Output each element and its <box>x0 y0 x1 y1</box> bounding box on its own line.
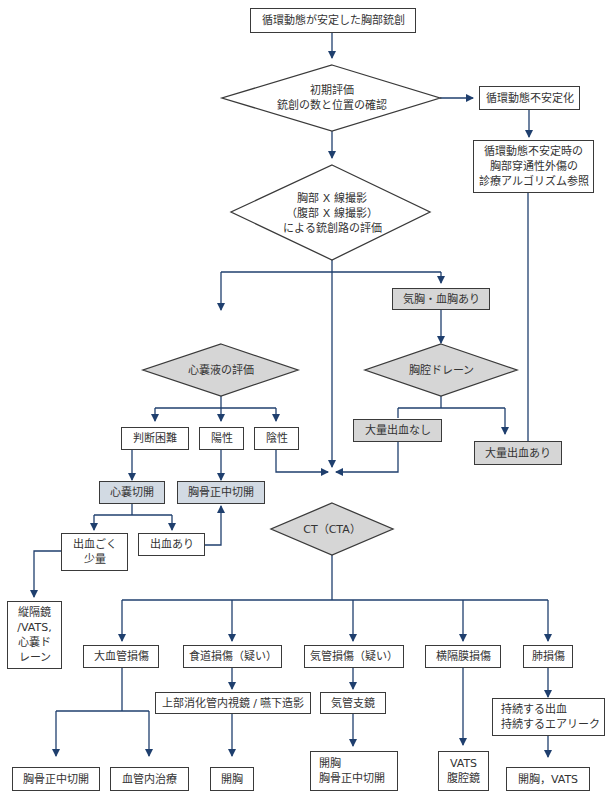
node-lung: 肺損傷 <box>523 645 573 668</box>
node-bleed-present: 出血あり <box>138 533 205 556</box>
node-thoracotomy-vats: 開胸，VATS <box>506 767 590 791</box>
flowchart: 循環動態が安定した胸部銃創 初期評価 銃創の数と位置の確認 循環動態不安定化 循… <box>0 0 614 804</box>
node-start: 循環動態が安定した胸部銃創 <box>250 8 416 33</box>
figure-caption-cutoff <box>170 794 490 804</box>
node-mediastinoscopy: 縦隔鏡 /VATS, 心嚢ド レーン <box>7 601 62 669</box>
node-pneumothorax: 気胸・血胸あり <box>392 288 490 310</box>
node-endoscopy: 上部消化管内視鏡 / 嚥下造影 <box>155 692 311 714</box>
node-massive-bleed: 大量出血あり <box>474 441 562 465</box>
node-bronchoscopy: 気管支鏡 <box>320 692 386 714</box>
node-esophageal: 食道損傷（疑い） <box>183 645 282 668</box>
node-sternotomy-upper: 胸骨正中切開 <box>177 481 265 504</box>
node-thoracotomy-sternotomy: 開胸 胸骨正中切開 <box>310 751 398 791</box>
node-difficult: 判断困難 <box>121 427 189 450</box>
label-chest-drain: 胸腔ドレーン <box>380 360 502 380</box>
node-unstable-ref: 循環動態不安定時の 胸部穿通性外傷の 診療アルゴリズム参照 <box>473 140 594 193</box>
label-xray: 胸部 X 線撮影 （腹部 X 線撮影） による銃創路の評価 <box>266 188 398 238</box>
node-negative: 陰性 <box>254 427 299 450</box>
node-no-massive-bleed: 大量出血なし <box>353 419 442 442</box>
node-pericardiotomy: 心嚢切開 <box>99 481 165 504</box>
node-persistent: 持続する出血 持続するエアリーク <box>492 698 605 736</box>
node-vats-laparoscopy: VATS 腹腔鏡 <box>438 751 489 791</box>
node-minimal-bleed: 出血ごく 少量 <box>61 533 128 571</box>
node-diaphragm: 横隔膜損傷 <box>425 645 501 668</box>
label-initial-eval: 初期評価 銃創の数と位置の確認 <box>252 80 412 116</box>
node-sternotomy-lower: 胸骨正中切開 <box>12 767 100 791</box>
node-great-vessel: 大血管損傷 <box>83 645 159 668</box>
node-unstable: 循環動態不安定化 <box>479 86 580 110</box>
label-ct: CT（CTA） <box>290 519 374 539</box>
node-tracheal: 気管損傷（疑い） <box>304 645 404 668</box>
connector-layer <box>0 0 614 804</box>
node-endovascular: 血管内治療 <box>110 767 189 791</box>
node-thoracotomy: 開胸 <box>210 767 254 791</box>
label-pericardial-eval: 心嚢液の評価 <box>160 360 282 380</box>
node-positive: 陽性 <box>199 427 244 450</box>
